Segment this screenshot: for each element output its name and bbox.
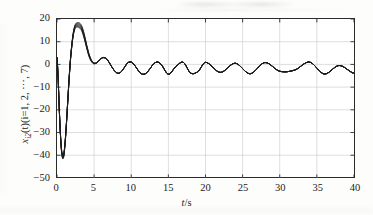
y-axis-label: xi2(t)(i=1, 2, ⋯, 7): [18, 24, 30, 184]
y-axis-variable: x: [19, 139, 30, 144]
x-tick-label: 25: [238, 183, 249, 194]
x-axis-label: t/s: [0, 197, 373, 208]
x-tick-label: 35: [312, 183, 323, 194]
x-tick-label: 0: [53, 183, 58, 194]
plot-canvas: [57, 19, 354, 178]
figure-root: 20100−10−20−30−40−50 0510152025303540 t/…: [0, 0, 373, 215]
x-tick-label: 40: [350, 183, 361, 194]
y-axis-argument: (t)(i=1, 2, ⋯, 7): [19, 65, 30, 133]
x-tick-label: 30: [275, 183, 286, 194]
x-tick-label: 20: [200, 183, 211, 194]
x-tick-label: 15: [163, 183, 174, 194]
y-tick-label: 20: [6, 13, 50, 24]
x-tick-label: 10: [126, 183, 137, 194]
grid-lines: [57, 19, 354, 178]
x-axis-unit: s: [187, 197, 191, 208]
scan-artifact-top-line: [150, 9, 360, 11]
y-axis-subscript: i2: [24, 133, 33, 139]
x-tick-label: 5: [91, 183, 96, 194]
scan-artifact-top: [176, 2, 296, 7]
plot-area: [56, 18, 355, 178]
